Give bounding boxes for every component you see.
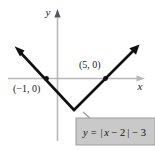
equation-bar-open: |	[101, 127, 103, 138]
equation-inner-op: − 2	[111, 127, 125, 138]
equation-outer-op: − 3	[132, 127, 146, 138]
equation-equals: =	[91, 127, 97, 138]
y-axis-label: y	[45, 6, 51, 18]
x-axis-label: x	[137, 80, 143, 92]
right-intercept-point	[103, 76, 108, 81]
right-intercept-label: (5, 0)	[79, 59, 101, 71]
equation-text: y=|x− 2|− 3	[82, 127, 146, 138]
absolute-value-graph-figure: y x (−1, 0) (5, 0) y=|x− 2|− 3	[0, 0, 155, 151]
equation-bar-close: |	[127, 127, 129, 138]
left-intercept-point	[44, 76, 49, 81]
left-intercept-label: (−1, 0)	[13, 83, 40, 95]
equation-lhs: y	[82, 127, 88, 138]
equation-inner-var: x	[103, 127, 109, 138]
